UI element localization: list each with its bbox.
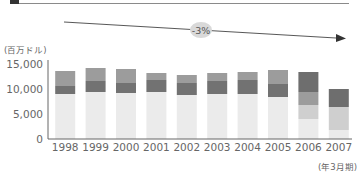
bar-segment <box>55 94 75 139</box>
bar-2004 <box>238 72 258 139</box>
y-tick-label: 5,000 <box>13 108 43 120</box>
bar-2005 <box>268 70 288 139</box>
bar-2006 <box>298 72 318 139</box>
bar-2002 <box>177 75 197 139</box>
bar-segment <box>207 81 227 94</box>
x-tick-label: 1998 <box>52 141 79 153</box>
x-axis: 1998199920002001200220032004200520062007 <box>48 139 352 153</box>
bar-segment <box>116 83 136 93</box>
arrow-head-icon <box>336 34 346 42</box>
x-axis-unit: (年3月期) <box>318 162 357 172</box>
bars <box>55 68 349 139</box>
bar-segment <box>177 83 197 95</box>
y-tick-label: 10,000 <box>6 83 43 95</box>
bar-2001 <box>146 73 166 139</box>
bar-segment <box>177 95 197 139</box>
bar-segment <box>207 94 227 139</box>
bar-segment <box>298 119 318 139</box>
bar-segment <box>329 89 349 107</box>
bar-segment <box>116 69 136 83</box>
bar-segment <box>238 72 258 80</box>
bar-2000 <box>116 69 136 139</box>
bar-segment <box>177 75 197 83</box>
bar-segment <box>298 72 318 92</box>
x-tick-label: 2004 <box>234 141 261 153</box>
x-tick-label: 1999 <box>82 141 109 153</box>
bar-segment <box>55 86 75 94</box>
x-tick-label: 2003 <box>204 141 231 153</box>
bar-segment <box>86 68 106 81</box>
bar-segment <box>86 81 106 92</box>
bar-segment <box>146 92 166 139</box>
bar-segment <box>298 105 318 119</box>
x-tick-label: 2005 <box>265 141 292 153</box>
bar-2003 <box>207 73 227 139</box>
bar-segment <box>268 97 288 139</box>
y-axis-unit: (百万ドル) <box>4 45 47 55</box>
y-tick-label: 15,000 <box>6 58 43 70</box>
bar-segment <box>55 71 75 86</box>
stacked-bar-chart: -3% (百万ドル) 05,00010,00015,000 1998199920… <box>0 0 360 174</box>
bar-segment <box>268 84 288 97</box>
y-tick-label: 0 <box>36 133 43 145</box>
bar-segment <box>116 93 136 139</box>
trend-arrow: -3% <box>64 22 346 42</box>
bar-segment <box>238 94 258 139</box>
x-tick-label: 2007 <box>325 141 352 153</box>
bar-1999 <box>86 68 106 139</box>
bar-segment <box>329 130 349 139</box>
bar-segment <box>207 73 227 81</box>
x-tick-label: 2001 <box>143 141 170 153</box>
trend-label: -3% <box>192 25 211 36</box>
bar-2007 <box>329 89 349 139</box>
bar-segment <box>146 73 166 80</box>
x-tick-label: 2006 <box>295 141 322 153</box>
bar-segment <box>329 107 349 130</box>
bar-segment <box>298 92 318 105</box>
bar-1998 <box>55 71 75 139</box>
bar-segment <box>238 80 258 94</box>
bar-segment <box>268 70 288 84</box>
x-tick-label: 2002 <box>173 141 200 153</box>
bar-segment <box>86 92 106 139</box>
x-tick-label: 2000 <box>113 141 140 153</box>
bar-segment <box>146 80 166 92</box>
y-axis: 05,00010,00015,000 <box>6 58 48 145</box>
